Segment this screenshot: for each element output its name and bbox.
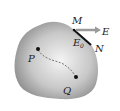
field-arrowhead-icon bbox=[95, 27, 101, 34]
point-m bbox=[73, 29, 76, 32]
label-p: P bbox=[27, 53, 35, 64]
point-q bbox=[74, 75, 78, 79]
label-q: Q bbox=[63, 85, 71, 96]
point-p bbox=[36, 47, 40, 51]
label-e0-subscript: 0 bbox=[80, 42, 84, 49]
conductor-diagram: M E E 0 N P Q bbox=[0, 0, 120, 111]
label-m: M bbox=[71, 15, 83, 26]
label-n: N bbox=[94, 43, 105, 54]
label-e: E bbox=[101, 26, 110, 37]
